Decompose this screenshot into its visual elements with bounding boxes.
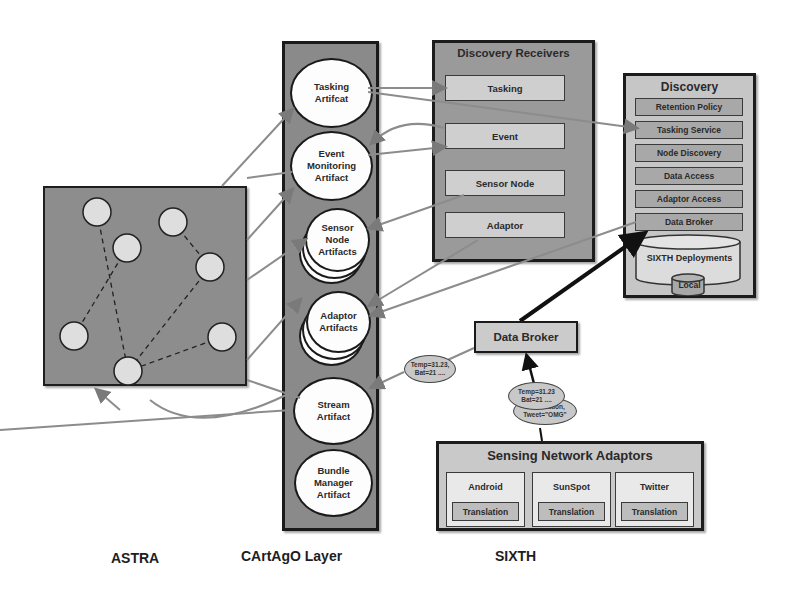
discovery-panel: Discovery Retention Policy Tasking Servi… xyxy=(623,73,756,298)
stream-artifact: Stream Artifact xyxy=(293,377,374,445)
stream-message-bubble: Temp=31.23, Bat=21 .... xyxy=(404,355,456,383)
discovery-title: Discovery xyxy=(626,80,753,94)
bundle-manager-artifact: Bundle Manager Artifact xyxy=(294,449,373,517)
discovery-receivers-panel: Discovery Receivers Tasking Event Sensor… xyxy=(432,40,595,262)
translation-module: Translation xyxy=(452,502,519,521)
receiver-event: Event xyxy=(445,123,565,149)
discovery-retention-policy: Retention Policy xyxy=(635,98,743,116)
astra-label: ASTRA xyxy=(111,550,159,566)
receiver-tasking: Tasking xyxy=(445,75,565,101)
sensing-network-adaptors-panel: Sensing Network Adaptors Android Transla… xyxy=(436,441,704,531)
data-broker: Data Broker xyxy=(474,321,578,353)
receiver-adaptor: Adaptor xyxy=(445,212,565,238)
adaptor-message-bubble-front: Temp=31.23 Bat=21 .... xyxy=(508,382,565,410)
receiver-sensor-node: Sensor Node xyxy=(445,170,565,196)
cartago-label: CArtAgO Layer xyxy=(241,548,342,564)
sixth-deployments-label: SIXTH Deployments xyxy=(626,253,753,263)
event-monitoring-artifact: Event Monitoring Artifact xyxy=(290,131,373,201)
discovery-adaptor-access: Adaptor Access xyxy=(635,190,743,208)
adaptor-name: Android xyxy=(447,482,524,492)
adaptor-name: Twitter xyxy=(616,482,693,492)
discovery-node-discovery: Node Discovery xyxy=(635,144,743,162)
adaptor-twitter: Twitter Translation xyxy=(615,472,694,527)
discovery-data-broker: Data Broker xyxy=(635,213,743,231)
sensor-node-artifacts: Sensor Node Artifacts xyxy=(305,208,370,272)
adaptor-name: SunSpot xyxy=(533,482,610,492)
translation-module: Translation xyxy=(538,502,605,521)
discovery-data-access: Data Access xyxy=(635,167,743,185)
local-db-label: Local xyxy=(626,280,753,290)
astra-panel xyxy=(43,186,247,386)
tasking-artifact: Tasking Artifcat xyxy=(290,58,373,128)
sna-title: Sensing Network Adaptors xyxy=(439,448,701,463)
adaptor-android: Android Translation xyxy=(446,472,525,527)
translation-module: Translation xyxy=(621,502,688,521)
adaptor-sunspot: SunSpot Translation xyxy=(532,472,611,527)
adaptor-artifacts: Adaptor Artifacts xyxy=(306,291,371,353)
discovery-receivers-title: Discovery Receivers xyxy=(435,47,592,59)
sixth-label: SIXTH xyxy=(495,548,536,564)
discovery-tasking-service: Tasking Service xyxy=(635,121,743,139)
